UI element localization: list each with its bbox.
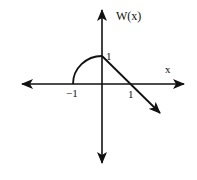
quarter-circle-curve (73, 56, 102, 84)
x-axis-label: x (165, 63, 171, 75)
y-axis-label: W(x) (116, 9, 141, 23)
y-tick-1: 1 (106, 50, 112, 62)
function-graph: W(x) x −1 1 1 (0, 0, 197, 180)
x-tick-1: 1 (128, 88, 134, 100)
x-tick-neg1: −1 (66, 87, 78, 99)
